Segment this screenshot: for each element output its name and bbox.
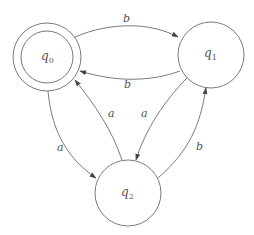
label-q0-q2: a	[57, 141, 64, 154]
label-q2-q1: b	[196, 140, 203, 153]
edge-q2-q0-a	[75, 80, 122, 160]
automaton-diagram: b b a a a b q0 q1 q2	[0, 0, 254, 235]
state-q0: q0	[13, 23, 81, 91]
edge-q0-q2-a	[48, 91, 96, 178]
transition-labels: b b a a a b	[57, 12, 203, 154]
label-q0-q1: b	[123, 12, 130, 25]
edge-q2-q1-b	[158, 88, 206, 178]
state-q1: q1	[178, 22, 244, 88]
state-q2: q2	[95, 160, 161, 226]
label-q2-q0: a	[108, 107, 115, 120]
label-q1-q2: a	[141, 107, 148, 120]
edge-q0-q1-b	[75, 26, 178, 37]
label-q1-q0: b	[124, 78, 131, 91]
